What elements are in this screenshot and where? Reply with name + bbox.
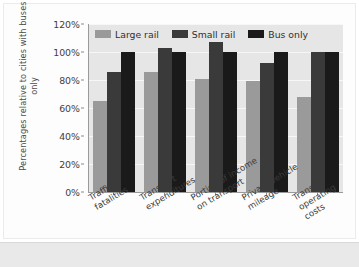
bar[interactable]: [93, 101, 107, 192]
y-tick-mark: [81, 136, 84, 137]
y-tick-label: 100%: [53, 47, 80, 58]
y-tick-label: 120%: [53, 19, 80, 30]
page-footer-band: [0, 242, 359, 267]
y-tick-label: 40%: [59, 131, 80, 142]
legend-label: Small rail: [192, 29, 235, 40]
y-tick-mark: [81, 108, 84, 109]
legend-swatch-icon: [248, 30, 264, 38]
legend-label: Bus only: [268, 29, 308, 40]
y-tick-label: 60%: [59, 103, 80, 114]
y-tick-mark: [81, 164, 84, 165]
y-tick-label: 0%: [65, 187, 80, 198]
legend-item[interactable]: Bus only: [248, 29, 308, 40]
legend-label: Large rail: [115, 29, 159, 40]
y-tick-mark: [81, 52, 84, 53]
y-tick-mark: [81, 192, 84, 193]
legend-item[interactable]: Small rail: [172, 29, 235, 40]
y-tick-mark: [81, 80, 84, 81]
y-tick-mark: [81, 24, 84, 25]
y-tick-label: 80%: [59, 75, 80, 86]
y-axis-tick-labels: 120%100%80%60%40%20%0%: [38, 24, 84, 196]
legend-swatch-icon: [95, 30, 111, 38]
chart-legend: Large railSmall railBus only: [95, 26, 308, 42]
figure-container: Percentages relative to cities with buse…: [0, 0, 359, 267]
legend-item[interactable]: Large rail: [95, 29, 159, 40]
legend-swatch-icon: [172, 30, 188, 38]
y-tick-label: 20%: [59, 159, 80, 170]
